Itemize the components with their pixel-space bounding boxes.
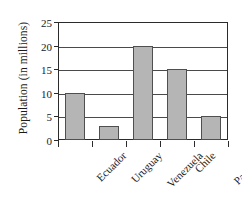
bar-ecuador [65,93,85,140]
y-tick-label-20: 20 [26,42,52,53]
x-axis-label-uruguay: Uruguay [129,150,164,185]
x-tickmark-4 [194,141,195,147]
bar-chart: Population (in millions) 0 5 10 15 20 25… [0,0,242,199]
y-tick-label-25: 25 [26,18,52,29]
x-tickmark-0 [58,141,59,147]
x-tickmark-1 [92,141,93,147]
x-axis-label-ecuador: Ecuador [95,150,129,184]
bar-uruguay [99,126,119,140]
y-axis-title: Population (in millions) [17,8,29,148]
x-tickmark-3 [160,141,161,147]
x-tickmark-5 [228,141,229,147]
y-tick-label-10: 10 [26,89,52,100]
bar-chile [167,69,187,140]
bars-layer [58,22,228,140]
bar-venezuela [133,46,153,140]
x-axis-label-paraguay: Paraguay [232,150,242,187]
bar-paraguay [201,116,221,140]
y-tick-label-15: 15 [26,65,52,76]
y-tick-label-5: 5 [26,112,52,123]
y-tick-label-0: 0 [26,136,52,147]
x-tickmark-2 [126,141,127,147]
